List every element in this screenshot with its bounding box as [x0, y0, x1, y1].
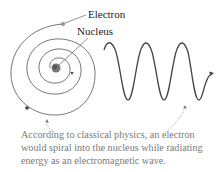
electron-icon: [61, 22, 65, 26]
caption-line: energy as an electromagnetic wave.: [21, 154, 217, 167]
nucleus-label: Nucleus: [77, 25, 113, 37]
orbit-arrow-marker: [25, 106, 29, 110]
electron-label: Electron: [88, 8, 125, 20]
caption-line: According to classical physics, an elect…: [21, 128, 217, 141]
caption: According to classical physics, an elect…: [21, 128, 217, 167]
caption-line: would spiral into the nucleus while radi…: [21, 141, 217, 154]
orbit-arrow-marker: [70, 72, 73, 75]
electron-leader-line: [65, 15, 86, 23]
em-wave: [104, 43, 210, 100]
nucleus-leader-line: [58, 38, 88, 66]
